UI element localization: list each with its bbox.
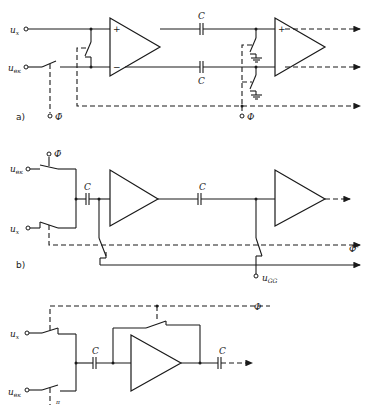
cap-label-c2: C [219,346,226,356]
panel-label-a: a) [16,112,25,122]
cap-label-c1: C [92,346,99,356]
input-ux-label-b: ux [10,224,20,235]
amplifier-b1 [110,170,158,226]
clock-phi-label-c: Φ [254,302,261,312]
panel-c: Φ ux uвк π C C [8,302,270,405]
cap-label-a1: C [198,11,205,21]
amplifier-b2 [275,170,325,226]
clock-phibar-label-b: Φ̄ [54,149,61,159]
clock-phibar-label-a: Φ̄ [55,112,62,122]
bias-ugg-label: uGG [262,273,278,284]
svg-text:+: + [113,24,121,34]
input-uvk-label-c: uвк [8,387,21,398]
svg-text:+: + [278,24,286,34]
input-terminal-ux [24,27,28,31]
amplifier-c1 [131,335,181,391]
input-ux-label-a: ux [10,25,20,36]
cap-label-a2: C [198,76,205,86]
input-uvk-label-a: uвк [8,63,21,74]
clock-phiprime-label-b: Φ' [349,244,359,254]
svg-text:−: − [113,62,121,72]
input-terminal-uvk [24,65,28,69]
clock-phi-label-a: Φ [247,112,254,122]
switch-a1 [42,61,56,67]
clock-pi-label-c: π [55,398,61,405]
cap-label-b1: C [84,182,91,192]
input-uvk-label-b: uвк [10,164,23,175]
cap-label-b2: C [199,182,206,192]
input-ux-label-c: ux [10,329,20,340]
circuit-diagram: ux uвк Φ̄ a) + − C C [0,0,366,405]
panel-label-b: b) [16,260,25,270]
panel-b: uвк Φ̄ ux Φ' C C [10,149,360,284]
panel-a: ux uвк Φ̄ a) + − C C [8,11,360,122]
